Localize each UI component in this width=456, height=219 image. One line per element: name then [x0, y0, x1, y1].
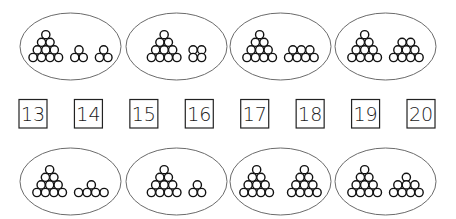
counter-circle — [75, 46, 83, 54]
counter-circle — [83, 188, 91, 196]
counter-circle — [288, 188, 296, 196]
number-label: 17 — [243, 103, 267, 125]
counter-circle — [189, 188, 197, 196]
counter-circle — [365, 53, 373, 61]
counter-circle — [54, 53, 62, 61]
counter-circle — [253, 166, 261, 174]
number-box-16[interactable]: 16 — [185, 100, 213, 129]
counter-circle — [46, 181, 54, 189]
number-label: 20 — [409, 103, 433, 125]
top-set-1[interactable] — [20, 13, 121, 80]
number-box-20[interactable]: 20 — [407, 100, 435, 129]
counter-circle — [79, 53, 87, 61]
counter-circle — [365, 38, 373, 46]
bottom-set-4[interactable] — [335, 148, 436, 215]
set-oval[interactable] — [230, 13, 331, 80]
counter-circle — [361, 166, 369, 174]
counter-circle — [147, 188, 155, 196]
counter-circle — [260, 38, 268, 46]
set-oval[interactable] — [126, 13, 227, 80]
counter-circle — [398, 38, 406, 46]
top-sets-row — [20, 13, 436, 80]
counter-circle — [260, 53, 268, 61]
number-label: 16 — [187, 103, 211, 125]
number-box-17[interactable]: 17 — [241, 100, 269, 129]
counter-circle — [390, 188, 398, 196]
counter-circle — [394, 181, 402, 189]
counter-circle — [251, 38, 259, 46]
number-box-15[interactable]: 15 — [130, 100, 158, 129]
number-box-14[interactable]: 14 — [74, 100, 102, 129]
cluster-group-2 — [285, 46, 319, 62]
counter-circle — [411, 181, 419, 189]
counter-circle — [37, 53, 45, 61]
counter-circle — [169, 46, 177, 54]
counter-circle — [398, 188, 406, 196]
counter-circle — [169, 181, 177, 189]
counter-circle — [257, 173, 265, 181]
counter-circle — [365, 188, 373, 196]
counter-circle — [292, 181, 300, 189]
counter-circle — [356, 173, 364, 181]
counter-circle — [306, 46, 314, 54]
counter-circle — [373, 53, 381, 61]
counter-circle — [285, 53, 293, 61]
counter-circle — [407, 188, 415, 196]
counter-circle — [300, 181, 308, 189]
counter-circle — [248, 173, 256, 181]
counter-circle — [248, 188, 256, 196]
counter-circle — [152, 181, 160, 189]
set-oval[interactable] — [126, 148, 227, 215]
counter-circle — [264, 46, 272, 54]
number-box-19[interactable]: 19 — [352, 100, 380, 129]
counter-circle — [373, 188, 381, 196]
number-label: 13 — [21, 103, 45, 125]
top-set-2[interactable] — [126, 13, 227, 80]
counter-circle — [29, 53, 37, 61]
counter-circle — [310, 53, 318, 61]
number-box-13[interactable]: 13 — [19, 100, 47, 129]
counter-circle — [415, 188, 423, 196]
counter-circle — [173, 188, 181, 196]
counter-circle — [160, 31, 168, 39]
counter-circle — [247, 46, 255, 54]
counter-circle — [293, 53, 301, 61]
number-label: 14 — [76, 103, 100, 125]
counter-circle — [402, 46, 410, 54]
top-set-3[interactable] — [230, 13, 331, 80]
counter-circle — [240, 188, 248, 196]
bottom-set-1[interactable] — [20, 148, 121, 215]
counter-circle — [352, 181, 360, 189]
counter-circle — [256, 31, 264, 39]
number-label: 18 — [298, 103, 322, 125]
counter-circle — [407, 53, 415, 61]
counter-circle — [289, 46, 297, 54]
number-label: 15 — [132, 103, 156, 125]
counting-worksheet: 1314151617181920 — [0, 0, 456, 219]
counter-circle — [415, 53, 423, 61]
counter-circle — [75, 188, 83, 196]
counter-circle — [160, 46, 168, 54]
set-oval[interactable] — [335, 13, 436, 80]
top-set-4[interactable] — [335, 13, 436, 80]
counter-circle — [95, 53, 103, 61]
counter-circle — [198, 188, 206, 196]
counter-circle — [164, 53, 172, 61]
counter-circle — [160, 181, 168, 189]
counter-circle — [398, 53, 406, 61]
counter-circle — [50, 173, 58, 181]
set-oval[interactable] — [20, 148, 121, 215]
set-oval[interactable] — [335, 148, 436, 215]
counter-circle — [41, 188, 49, 196]
bottom-set-2[interactable] — [126, 148, 227, 215]
number-box-18[interactable]: 18 — [296, 100, 324, 129]
number-boxes-row: 1314151617181920 — [19, 100, 435, 129]
counter-circle — [261, 181, 269, 189]
counter-circle — [313, 188, 321, 196]
counter-circle — [100, 46, 108, 54]
counter-circle — [33, 188, 41, 196]
counter-circle — [296, 173, 304, 181]
bottom-sets-row — [20, 148, 436, 215]
counter-circle — [251, 53, 259, 61]
bottom-set-3[interactable] — [230, 148, 331, 215]
